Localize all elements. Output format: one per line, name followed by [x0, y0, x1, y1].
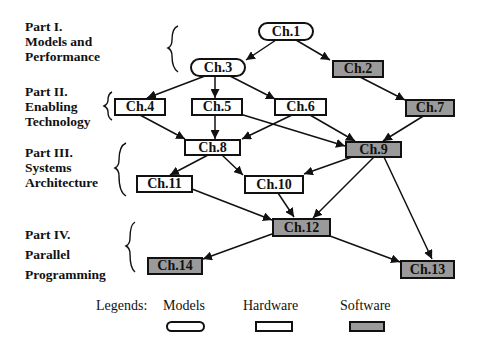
legend-software-label: Software — [340, 298, 391, 314]
node-ch1-label: Ch.1 — [272, 24, 300, 40]
node-ch13-label: Ch.13 — [410, 262, 445, 278]
legend-software-swatch — [349, 321, 385, 332]
node-ch4-label: Ch.4 — [126, 99, 154, 115]
node-ch4: Ch.4 — [114, 98, 166, 116]
node-ch3-label: Ch.3 — [204, 60, 232, 76]
node-ch6-label: Ch.6 — [286, 99, 314, 115]
node-ch11: Ch.11 — [136, 175, 193, 193]
edge-ch3-ch6 — [230, 76, 275, 99]
edge-ch12-ch13 — [330, 236, 400, 262]
edge-ch9-ch12 — [313, 157, 374, 218]
node-ch9-label: Ch.9 — [359, 142, 387, 158]
edge-ch5-ch9 — [240, 114, 345, 146]
edge-ch10-ch12 — [278, 193, 294, 217]
edge-ch12-ch14 — [203, 234, 272, 259]
node-ch3: Ch.3 — [190, 58, 246, 77]
node-ch8-label: Ch.8 — [198, 140, 226, 156]
edge-ch8-ch10 — [222, 155, 243, 175]
node-ch14-label: Ch.14 — [157, 258, 192, 274]
node-ch7: Ch.7 — [405, 99, 455, 117]
edge-ch3-ch4 — [147, 76, 205, 98]
node-ch5: Ch.5 — [191, 98, 243, 116]
edge-ch8-ch11 — [170, 155, 208, 175]
node-ch7-label: Ch.7 — [416, 100, 444, 116]
node-ch14: Ch.14 — [147, 257, 203, 275]
legend-hardware-label: Hardware — [243, 298, 298, 314]
node-ch12-label: Ch.12 — [284, 220, 319, 236]
edge-ch4-ch8 — [140, 115, 185, 139]
edge-ch7-ch9 — [383, 115, 425, 141]
node-ch8: Ch.8 — [184, 139, 241, 156]
edges-layer — [0, 0, 480, 346]
node-ch2-label: Ch.2 — [344, 61, 372, 77]
legend-title: Legends: — [96, 298, 147, 314]
node-ch10: Ch.10 — [244, 175, 304, 194]
node-ch13: Ch.13 — [400, 260, 455, 279]
edge-ch9-ch13 — [384, 157, 432, 259]
node-ch11-label: Ch.11 — [147, 176, 182, 192]
node-ch10-label: Ch.10 — [256, 177, 291, 193]
node-ch12: Ch.12 — [272, 218, 331, 237]
edge-ch1-ch3 — [246, 40, 276, 60]
edge-ch9-ch10 — [304, 157, 352, 174]
node-ch2: Ch.2 — [332, 60, 384, 78]
node-ch1: Ch.1 — [258, 22, 314, 41]
legend-models-swatch — [166, 321, 205, 332]
node-ch5-label: Ch.5 — [203, 99, 231, 115]
node-ch9: Ch.9 — [345, 141, 402, 158]
edge-ch1-ch2 — [296, 40, 330, 60]
edge-ch2-ch7 — [360, 77, 405, 100]
legend-models-label: Models — [163, 298, 205, 314]
legend-hardware-swatch — [255, 321, 293, 332]
node-ch6: Ch.6 — [274, 98, 327, 116]
